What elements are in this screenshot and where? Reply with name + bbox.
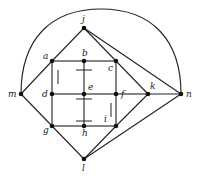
node-a xyxy=(50,59,55,64)
node-label-m: m xyxy=(8,89,17,99)
node-j xyxy=(82,26,87,31)
edge-j-c xyxy=(84,28,116,61)
node-label-i: i xyxy=(104,114,107,124)
node-l xyxy=(82,157,87,162)
node-k xyxy=(146,92,151,97)
node-m xyxy=(19,92,24,97)
node-c xyxy=(114,59,119,64)
node-g xyxy=(50,124,55,129)
node-label-e: e xyxy=(88,82,93,92)
node-label-a: a xyxy=(43,51,48,61)
edge-j-a xyxy=(52,28,84,61)
node-b xyxy=(82,59,87,64)
graph-diagram: jabcmdefknghil xyxy=(0,0,199,178)
node-f xyxy=(114,92,119,97)
node-label-d: d xyxy=(42,89,48,99)
node-label-b: b xyxy=(82,48,88,58)
node-label-g: g xyxy=(43,125,49,135)
node-i xyxy=(114,124,119,129)
node-label-l: l xyxy=(82,163,85,173)
edge-l-g xyxy=(52,126,84,159)
node-e xyxy=(82,92,87,97)
node-label-n: n xyxy=(186,89,192,99)
node-label-k: k xyxy=(150,81,155,91)
node-n xyxy=(179,92,184,97)
edge-l-i xyxy=(84,126,116,159)
node-label-c: c xyxy=(108,63,113,73)
node-label-h: h xyxy=(82,128,88,138)
node-label-j: j xyxy=(80,14,85,24)
node-d xyxy=(50,92,55,97)
